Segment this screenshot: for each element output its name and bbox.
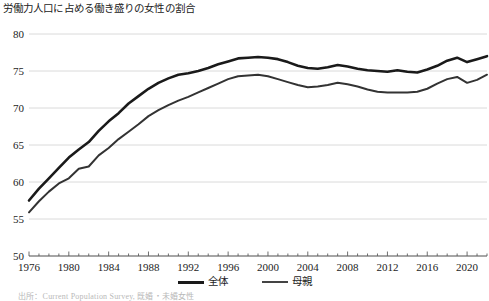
- y-axis-tick-labels: 50556065707580: [13, 28, 25, 262]
- x-axis: [29, 252, 487, 257]
- legend-item[interactable]: 全体: [178, 276, 228, 288]
- x-tick-label: 1976: [18, 261, 41, 273]
- series-line: [29, 75, 487, 213]
- y-tick-label: 60: [13, 176, 25, 188]
- gridlines-group: [29, 34, 487, 256]
- x-tick-label: 2008: [337, 261, 360, 273]
- legend-label: 全体: [208, 276, 228, 288]
- x-tick-label: 1988: [137, 261, 160, 273]
- line-chart-plot: 50556065707580 1976198019841988199219962…: [0, 0, 489, 301]
- chart-legend: 全体母親: [0, 276, 489, 288]
- y-tick-label: 70: [13, 102, 25, 114]
- legend-item[interactable]: 母親: [262, 276, 312, 288]
- x-tick-label: 2020: [456, 261, 479, 273]
- x-tick-label: 1980: [58, 261, 81, 273]
- y-tick-label: 65: [13, 139, 25, 151]
- chart-figure: 労働力人口に占める働き盛りの女性の割合 50556065707580 19761…: [0, 0, 489, 301]
- x-tick-label: 2000: [257, 261, 280, 273]
- x-tick-label: 2004: [297, 261, 320, 273]
- x-tick-label: 1992: [177, 261, 199, 273]
- source-note: 出所：Current Population Survey, 既婚・未婚女性: [18, 292, 195, 301]
- series-group: [29, 56, 487, 212]
- y-tick-label: 80: [13, 28, 25, 40]
- series-line: [29, 56, 487, 200]
- x-tick-label: 1984: [98, 261, 121, 273]
- legend-swatch: [262, 281, 288, 283]
- legend-swatch: [178, 281, 204, 284]
- x-tick-label: 2016: [416, 261, 439, 273]
- x-axis-tick-labels: 1976198019841988199219962000200420082012…: [18, 261, 479, 273]
- x-tick-label: 1996: [217, 261, 240, 273]
- legend-label: 母親: [292, 276, 312, 288]
- y-tick-label: 55: [13, 213, 25, 225]
- x-tick-label: 2012: [376, 261, 398, 273]
- y-tick-label: 75: [13, 65, 25, 77]
